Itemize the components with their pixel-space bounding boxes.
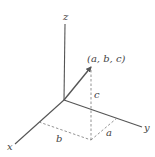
component-b-label: b xyxy=(56,133,62,144)
position-vector xyxy=(64,67,91,100)
component-c-label: c xyxy=(94,89,100,100)
x-axis-label: x xyxy=(7,141,13,152)
y-axis xyxy=(64,100,142,127)
dashed-b-line xyxy=(39,122,91,140)
z-axis-label: z xyxy=(62,11,69,22)
y-axis-label: y xyxy=(143,122,150,133)
coordinate-diagram: z y x (a, b, c) c b a xyxy=(0,0,155,157)
dashed-a-line xyxy=(91,118,117,140)
z-axis xyxy=(64,24,65,100)
point-label: (a, b, c) xyxy=(87,53,126,64)
component-a-label: a xyxy=(106,127,112,138)
diagram-svg: z y x (a, b, c) c b a xyxy=(0,0,155,157)
